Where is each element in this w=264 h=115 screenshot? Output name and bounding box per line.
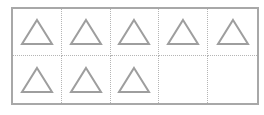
triangle-icon [166, 18, 200, 46]
triangle-icon [216, 18, 250, 46]
triangle-icon [69, 18, 103, 46]
ten-frame [11, 7, 259, 105]
frame-cell [13, 9, 62, 56]
frame-cell [62, 9, 111, 56]
frame-cell [159, 56, 208, 103]
frame-cell [62, 56, 111, 103]
frame-cell [111, 56, 160, 103]
triangle-icon [69, 66, 103, 94]
triangle-icon [20, 66, 54, 94]
frame-cell [208, 9, 257, 56]
frame-cell [159, 9, 208, 56]
frame-cell [208, 56, 257, 103]
triangle-icon [20, 18, 54, 46]
frame-cell [111, 9, 160, 56]
triangle-icon [117, 18, 151, 46]
frame-cell [13, 56, 62, 103]
triangle-icon [117, 66, 151, 94]
